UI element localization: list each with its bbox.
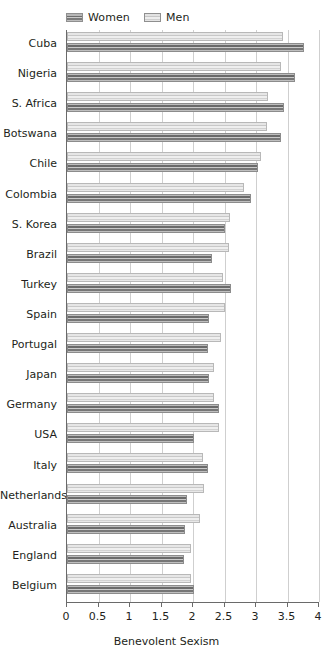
- bar-men: [67, 62, 281, 71]
- bar-men: [67, 363, 214, 372]
- bar-women: [67, 495, 187, 504]
- bar-group: [67, 120, 319, 150]
- bar-group: [67, 271, 319, 301]
- bar-men: [67, 92, 268, 101]
- bar-group: [67, 150, 319, 180]
- bar-men: [67, 453, 203, 462]
- category-label: Germany: [0, 398, 62, 411]
- legend-swatch-women-icon: [66, 13, 83, 22]
- bar-group: [67, 60, 319, 90]
- category-label: Italy: [0, 459, 62, 472]
- bar-group: [67, 331, 319, 361]
- category-label: Brazil: [0, 248, 62, 261]
- bar-women: [67, 163, 258, 172]
- legend-label-men: Men: [166, 11, 190, 24]
- category-label: Cuba: [0, 37, 62, 50]
- category-axis-labels: CubaNigeriaS. AfricaBotswanaChileColombi…: [0, 30, 62, 602]
- bar-men: [67, 122, 267, 131]
- category-label: USA: [0, 428, 62, 441]
- bar-women: [67, 43, 304, 52]
- bar-group: [67, 482, 319, 512]
- bar-group: [67, 361, 319, 391]
- category-label: Japan: [0, 368, 62, 381]
- x-tick: [98, 602, 99, 607]
- category-label: Chile: [0, 157, 62, 170]
- category-label: Nigeria: [0, 67, 62, 80]
- bar-group: [67, 421, 319, 451]
- bar-group: [67, 181, 319, 211]
- x-tick-label: 1: [126, 610, 133, 623]
- gridline: [319, 30, 320, 602]
- bar-men: [67, 303, 225, 312]
- bar-men: [67, 273, 223, 282]
- category-label: Turkey: [0, 278, 62, 291]
- bar-women: [67, 404, 219, 413]
- bar-men: [67, 152, 261, 161]
- x-tick: [318, 602, 319, 607]
- bar-women: [67, 434, 194, 443]
- bar-women: [67, 284, 231, 293]
- bar-men: [67, 484, 204, 493]
- category-label: Netherlands: [0, 489, 62, 502]
- bar-men: [67, 393, 214, 402]
- x-tick: [129, 602, 130, 607]
- bar-women: [67, 585, 194, 594]
- bar-women: [67, 73, 295, 82]
- bar-women: [67, 464, 208, 473]
- bar-men: [67, 183, 244, 192]
- legend-item-women: Women: [66, 11, 130, 24]
- category-label: England: [0, 549, 62, 562]
- x-tick: [66, 602, 67, 607]
- bar-women: [67, 314, 209, 323]
- x-tick-label: 4: [315, 610, 322, 623]
- bar-group: [67, 211, 319, 241]
- x-tick: [224, 602, 225, 607]
- category-label: Australia: [0, 519, 62, 532]
- legend-label-women: Women: [88, 11, 130, 24]
- bar-women: [67, 103, 284, 112]
- bar-group: [67, 301, 319, 331]
- plot-area: [66, 30, 319, 602]
- bar-group: [67, 30, 319, 60]
- bar-men: [67, 574, 191, 583]
- bar-group: [67, 391, 319, 421]
- bar-group: [67, 451, 319, 481]
- bar-men: [67, 243, 229, 252]
- x-tick-label: 2: [189, 610, 196, 623]
- bar-women: [67, 344, 208, 353]
- category-label: Portugal: [0, 338, 62, 351]
- bar-women: [67, 254, 212, 263]
- bar-women: [67, 133, 281, 142]
- x-tick-label: 3: [252, 610, 259, 623]
- x-tick-label: 0: [63, 610, 70, 623]
- chart-legend: Women Men: [66, 9, 189, 25]
- bar-group: [67, 572, 319, 602]
- category-label: Belgium: [0, 579, 62, 592]
- category-label: Colombia: [0, 188, 62, 201]
- category-label: Spain: [0, 308, 62, 321]
- x-tick: [192, 602, 193, 607]
- bar-men: [67, 544, 191, 553]
- bar-men: [67, 333, 221, 342]
- bar-women: [67, 525, 185, 534]
- category-label: Botswana: [0, 127, 62, 140]
- bar-women: [67, 555, 184, 564]
- bar-group: [67, 512, 319, 542]
- bar-women: [67, 194, 251, 203]
- x-tick: [287, 602, 288, 607]
- bar-group: [67, 542, 319, 572]
- bar-men: [67, 514, 200, 523]
- bar-women: [67, 374, 209, 383]
- legend-item-men: Men: [144, 11, 190, 24]
- x-tick: [255, 602, 256, 607]
- category-label: S. Africa: [0, 97, 62, 110]
- x-tick-label: 1.5: [152, 610, 170, 623]
- bar-men: [67, 423, 219, 432]
- bar-women: [67, 224, 225, 233]
- bar-men: [67, 32, 283, 41]
- category-label: S. Korea: [0, 218, 62, 231]
- bar-group: [67, 241, 319, 271]
- x-axis-title: Benevolent Sexism: [0, 635, 333, 648]
- legend-swatch-men-icon: [144, 13, 161, 22]
- x-tick-label: 0.5: [89, 610, 107, 623]
